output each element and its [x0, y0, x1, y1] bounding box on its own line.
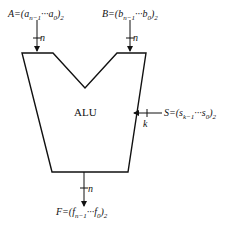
input-a-width: n [40, 33, 45, 43]
alu-title: ALU [74, 107, 97, 118]
output-f-width: n [88, 184, 93, 194]
input-a-label: A=(an−1···a0)2 [8, 9, 64, 22]
input-b-label: B=(bn−1···b0)2 [102, 9, 158, 22]
select-label: S=(sk−1···s0)2 [164, 108, 216, 121]
output-f-label: F=(fn−1···f0)2 [56, 207, 107, 220]
select-width: k [143, 119, 147, 129]
input-b-width: n [133, 33, 138, 43]
